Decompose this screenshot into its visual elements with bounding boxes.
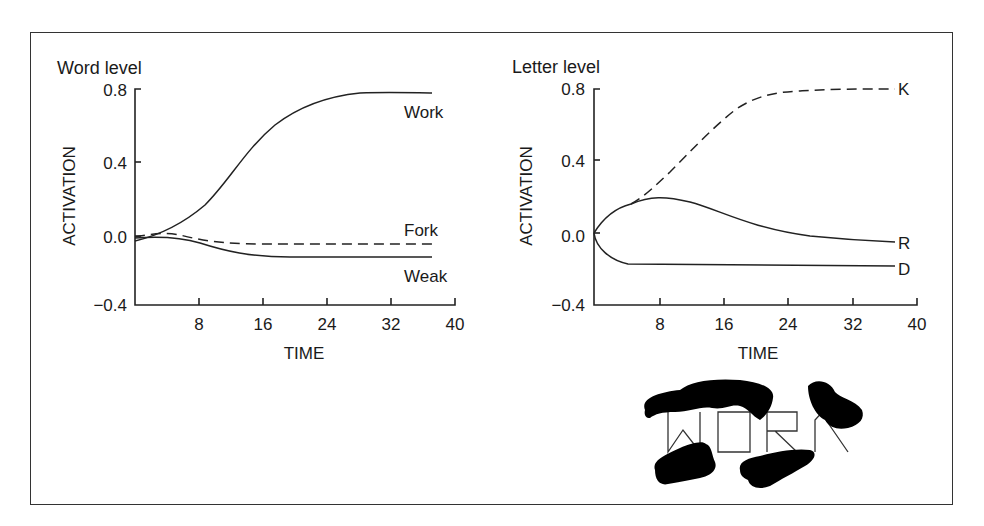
- series-weak-line: [135, 237, 432, 257]
- x-ticks: [199, 298, 391, 305]
- series-label-fork: Fork: [404, 221, 439, 240]
- x-axis-title: TIME: [738, 344, 779, 363]
- x-tick-label: 16: [715, 315, 734, 334]
- x-tick-label: 32: [844, 315, 863, 334]
- y-tick-label: 0.0: [561, 227, 585, 246]
- chart-title: Letter level: [512, 57, 600, 77]
- y-tick-label: −0.4: [551, 296, 585, 315]
- x-tick-label: 24: [779, 315, 798, 334]
- axes: [594, 89, 917, 305]
- occluded-word-illustration: [644, 379, 863, 488]
- y-ticks: [135, 162, 141, 236]
- series-label-r: R: [898, 234, 910, 253]
- y-axis-title: ACTIVATION: [60, 146, 79, 246]
- x-tick-label: 8: [655, 315, 664, 334]
- x-tick-label: 40: [446, 315, 465, 334]
- letter-level-chart: Letter level 0.8 0.4 0.0 −0.4 8 16 24 32…: [512, 57, 926, 363]
- x-ticks: [660, 298, 853, 305]
- letter-o-glyph: [718, 412, 750, 452]
- letter-r-glyph: [767, 412, 797, 452]
- ink-blot: [740, 449, 815, 488]
- series-r-line: [594, 198, 895, 242]
- y-tick-label: −0.4: [93, 296, 127, 315]
- x-tick-label: 24: [318, 315, 337, 334]
- series-d-line: [594, 233, 895, 266]
- y-tick-label: 0.8: [103, 81, 127, 100]
- x-tick-label: 16: [254, 315, 273, 334]
- series-label-work: Work: [404, 103, 444, 122]
- x-tick-label: 32: [382, 315, 401, 334]
- x-tick-label: 8: [194, 315, 203, 334]
- y-tick-label: 0.0: [103, 228, 127, 247]
- y-tick-label: 0.4: [103, 154, 127, 173]
- ink-blot: [808, 381, 863, 429]
- figure-canvas: Word level 0.8 0.4 0.0 −0.4 8 16 24 32 4…: [0, 0, 984, 526]
- series-k-line: [631, 89, 895, 204]
- series-label-weak: Weak: [404, 267, 448, 286]
- x-axis-title: TIME: [284, 344, 325, 363]
- ink-blot: [644, 379, 773, 420]
- y-ticks: [594, 160, 600, 233]
- series-work-line: [135, 93, 432, 241]
- word-level-chart: Word level 0.8 0.4 0.0 −0.4 8 16 24 32 4…: [57, 58, 464, 363]
- series-label-k: K: [898, 80, 910, 99]
- chart-title: Word level: [57, 58, 142, 78]
- ink-blot: [655, 442, 716, 484]
- x-tick-label: 40: [908, 315, 927, 334]
- y-axis-title: ACTIVATION: [517, 146, 536, 246]
- y-tick-label: 0.8: [561, 80, 585, 99]
- y-tick-label: 0.4: [561, 152, 585, 171]
- series-label-d: D: [898, 260, 910, 279]
